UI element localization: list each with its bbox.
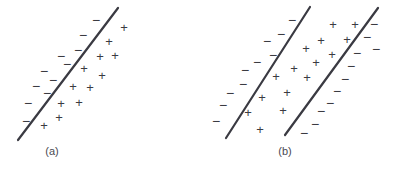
- data-point-minus: −: [22, 114, 30, 128]
- data-point-minus: −: [40, 64, 48, 78]
- figure-root: −−−−−−−−−−−++++++++++++ (a) −−−−−−−−−−−−…: [0, 0, 398, 169]
- data-point-plus: +: [80, 62, 88, 75]
- panel-b: −−−−−−−−−−−−−−−−−−−−−+++++++++++++++ (b): [199, 0, 398, 169]
- data-point-plus: +: [329, 18, 337, 31]
- data-point-plus: +: [55, 111, 63, 124]
- data-point-minus: −: [263, 34, 271, 48]
- data-point-plus: +: [317, 34, 325, 47]
- data-point-plus: +: [57, 97, 65, 110]
- panel-a: −−−−−−−−−−−++++++++++++ (a): [0, 0, 199, 169]
- data-point-plus: +: [256, 123, 264, 136]
- data-point-minus: −: [341, 72, 349, 86]
- data-point-plus: +: [244, 106, 252, 119]
- data-point-plus: +: [40, 119, 48, 132]
- data-point-minus: −: [92, 13, 100, 27]
- data-point-minus: −: [43, 86, 51, 100]
- data-point-plus: +: [279, 104, 287, 117]
- data-point-plus: +: [98, 69, 106, 82]
- data-point-plus: +: [272, 70, 280, 83]
- data-point-minus: −: [74, 43, 82, 57]
- data-point-plus: +: [328, 48, 336, 61]
- data-point-minus: −: [63, 57, 71, 71]
- data-point-plus: +: [312, 56, 320, 69]
- data-point-plus: +: [69, 80, 77, 93]
- data-point-minus: −: [269, 48, 277, 62]
- data-point-plus: +: [290, 62, 298, 75]
- data-point-minus: −: [311, 117, 319, 131]
- data-point-plus: +: [283, 86, 291, 99]
- data-point-plus: +: [75, 96, 83, 109]
- data-point-minus: −: [370, 17, 378, 31]
- data-point-plus: +: [351, 18, 359, 31]
- data-point-plus: +: [302, 42, 310, 55]
- data-point-minus: −: [326, 96, 334, 110]
- data-point-plus: +: [343, 33, 351, 46]
- data-point-minus: −: [333, 84, 341, 98]
- panel-a-caption: (a): [45, 146, 58, 157]
- data-point-plus: +: [120, 21, 128, 34]
- data-point-minus: −: [239, 77, 247, 91]
- data-point-minus: −: [24, 96, 32, 110]
- data-point-minus: −: [32, 79, 40, 93]
- data-point-plus: +: [105, 35, 113, 48]
- data-point-plus: +: [86, 81, 94, 94]
- data-point-minus: −: [241, 63, 249, 77]
- data-point-plus: +: [258, 91, 266, 104]
- data-point-minus: −: [79, 28, 87, 42]
- data-point-plus: +: [303, 71, 311, 84]
- data-point-minus: −: [253, 55, 261, 69]
- data-point-minus: −: [363, 30, 371, 44]
- data-point-minus: −: [212, 114, 220, 128]
- data-point-minus: −: [288, 13, 296, 27]
- data-point-plus: +: [96, 50, 104, 63]
- data-point-minus: −: [372, 42, 380, 56]
- data-point-minus: −: [226, 86, 234, 100]
- data-point-plus: +: [111, 49, 119, 62]
- data-point-minus: −: [277, 27, 285, 41]
- data-point-minus: −: [219, 98, 227, 112]
- panel-b-caption: (b): [278, 146, 291, 157]
- data-point-minus: −: [300, 126, 308, 140]
